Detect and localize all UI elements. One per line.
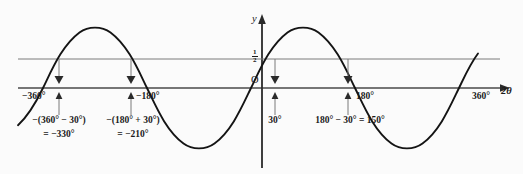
- solution-drop-arrows: [59, 59, 348, 78]
- y-tick-one-half: 1 2: [252, 49, 258, 65]
- origin-label: O: [251, 75, 259, 86]
- y-axis: [258, 14, 266, 168]
- x-tick-minus-180: −180°: [136, 92, 159, 102]
- x-tick-minus-360: −360°: [22, 92, 45, 102]
- y-axis-label: y: [252, 14, 257, 25]
- x-axis-label: 2θ: [501, 86, 512, 97]
- annotation-150-line1: 180° − 30° = 150°: [296, 116, 404, 126]
- x-tick-360: 360°: [472, 92, 490, 102]
- trig-graph-figure: y 2θ O 1 2 −360° −180° 180° 360° −(360° …: [0, 0, 523, 174]
- x-axis: [18, 84, 510, 92]
- annotation-150: 180° − 30° = 150°: [296, 116, 404, 126]
- annotation-leader-lines: [59, 99, 348, 115]
- annotation-30-line1: 30°: [255, 116, 295, 126]
- annotation-minus-210-line1: −(180° + 30°): [84, 116, 182, 126]
- annotation-minus-210-line2: = −210°: [84, 130, 182, 140]
- annotation-leader-arrowheads: [56, 92, 352, 99]
- annotation-30: 30°: [255, 116, 295, 126]
- annotation-minus-210: −(180° + 30°) = −210°: [84, 116, 182, 139]
- fraction-denominator: 2: [252, 57, 258, 64]
- sine-curve-plot: [0, 0, 523, 174]
- solution-drop-arrowheads: [55, 76, 353, 84]
- x-tick-180: 180°: [356, 92, 374, 102]
